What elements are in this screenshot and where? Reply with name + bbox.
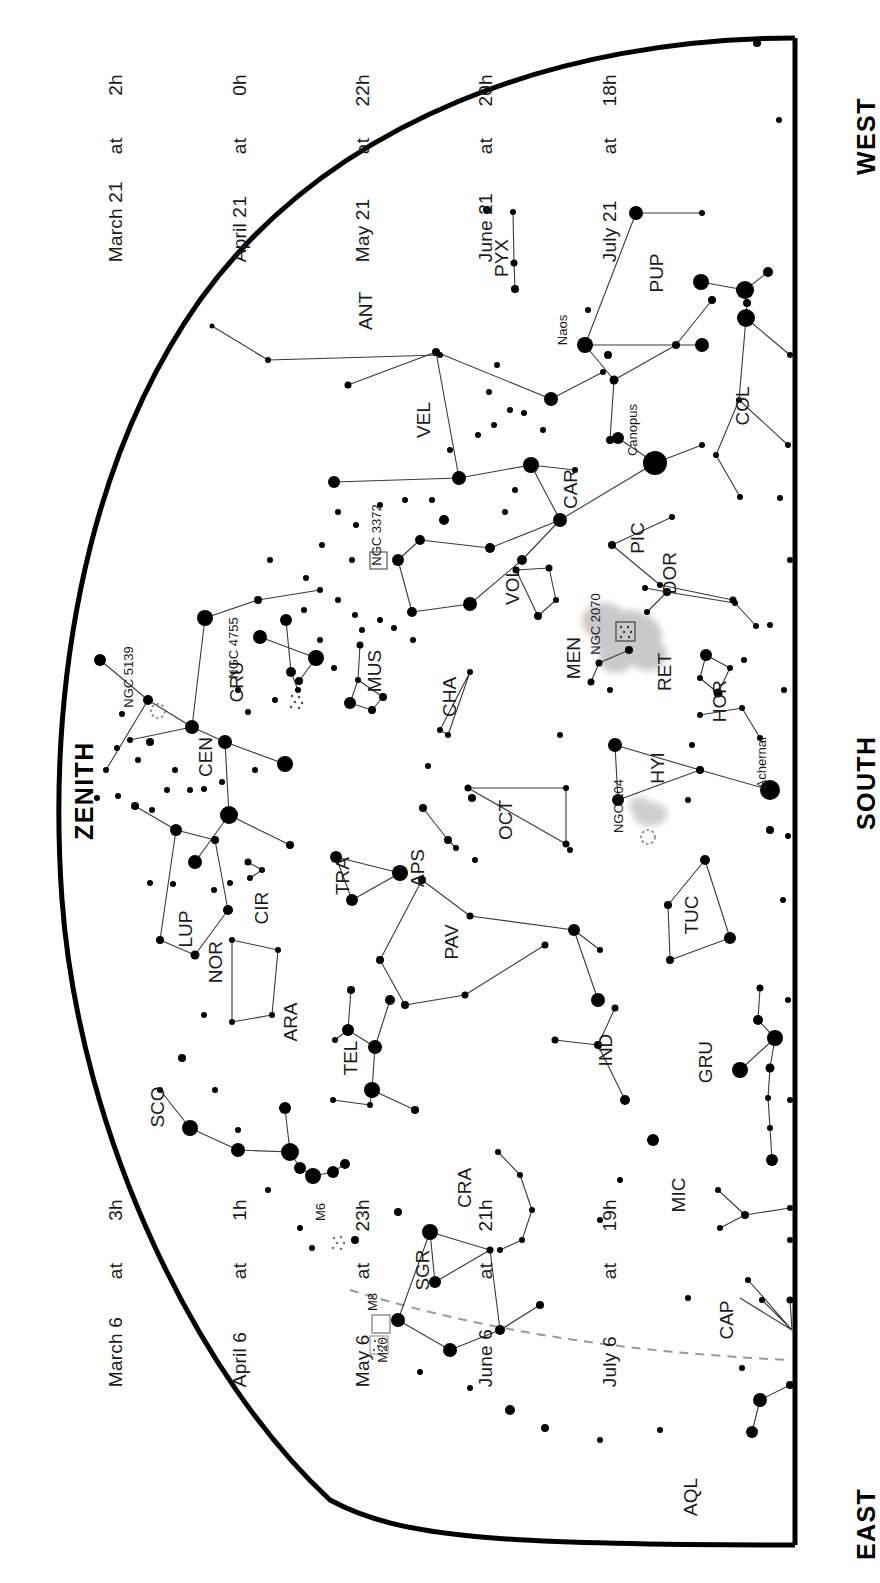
epoch-time: 3h — [104, 1199, 129, 1245]
epoch-date: June 21 — [474, 154, 499, 262]
constellation-label-ngc-3372: NGC 3372 — [369, 504, 384, 565]
epoch-at: at — [104, 120, 129, 154]
epoch-row: April 6at1h — [203, 1199, 277, 1420]
epoch-time: 1h — [228, 1199, 253, 1245]
epoch-at: at — [598, 1245, 623, 1279]
epoch-at: at — [351, 1245, 376, 1279]
constellation-label-ara: ARA — [280, 1002, 301, 1041]
constellation-label-men: MEN — [563, 637, 584, 679]
epoch-time: 18h — [598, 74, 623, 120]
epoch-at: at — [598, 120, 623, 154]
constellation-label-ret: RET — [654, 653, 675, 691]
constellation-label-hor: HOR — [709, 680, 730, 722]
constellation-label-achernar: Achernar — [754, 735, 769, 788]
epoch-row: March 21at2h — [79, 74, 153, 295]
epoch-at: at — [228, 1245, 253, 1279]
epoch-time: 2h — [104, 74, 129, 120]
constellation-label-gru: GRU — [695, 1041, 716, 1083]
constellation-label-ngc-104: NGC 104 — [611, 779, 626, 833]
constellation-label-col: COL — [732, 386, 753, 425]
constellation-label-ant: ANT — [355, 292, 376, 330]
cardinal-east: EAST — [852, 1488, 880, 1560]
epoch-table-top: March 21at2h April 21at0h May 21at22h Ju… — [30, 74, 697, 295]
epoch-table-bottom: March 6at3h April 6at1h May 6at23h June … — [30, 1199, 697, 1420]
epoch-time: 19h — [598, 1199, 623, 1245]
epoch-row: June 21at20h — [450, 74, 524, 295]
epoch-at: at — [351, 120, 376, 154]
epoch-row: May 21at22h — [326, 74, 400, 295]
epoch-time: 23h — [351, 1199, 376, 1245]
constellation-label-cir: CIR — [251, 892, 272, 925]
constellation-label-dor: DOR — [659, 552, 680, 594]
epoch-date: May 6 — [351, 1279, 376, 1387]
star-chart: PYXPUPANTVELCOLCARPICNGC 3372DORVOLNGC 2… — [0, 0, 880, 1583]
constellation-label-tra: TRA — [332, 857, 353, 895]
epoch-row: March 6at3h — [79, 1199, 153, 1420]
epoch-row: July 21at18h — [573, 74, 647, 295]
constellation-label-tuc: TUC — [681, 895, 702, 934]
constellation-label-ngc-5139: NGC 5139 — [121, 646, 136, 707]
constellation-label-ngc-2070: NGC 2070 — [588, 593, 603, 654]
star-label-naos: Naos — [555, 314, 570, 345]
constellation-label-pav: PAV — [441, 924, 462, 960]
epoch-date: July 21 — [598, 154, 623, 262]
epoch-at: at — [474, 120, 499, 154]
constellation-label-ind: IND — [595, 1034, 616, 1067]
constellation-label-sco: SCO — [147, 1086, 168, 1127]
epoch-row: May 6at23h — [326, 1199, 400, 1420]
epoch-date: April 21 — [228, 154, 253, 262]
constellation-label-pic: PIC — [627, 522, 648, 554]
epoch-date: March 6 — [104, 1279, 129, 1387]
constellation-label-lup: LUP — [175, 911, 196, 948]
constellation-label-aql: AQL — [680, 1478, 701, 1516]
epoch-at: at — [104, 1245, 129, 1279]
epoch-at: at — [474, 1245, 499, 1279]
constellation-label-hyi: HYI — [647, 752, 668, 784]
constellation-label-cen: CEN — [195, 737, 216, 777]
constellation-label-aps: APS — [407, 849, 428, 887]
cardinal-south: SOUTH — [852, 736, 880, 831]
epoch-time: 0h — [228, 74, 253, 120]
star-label-canopus: Canopus — [625, 403, 640, 456]
constellation-label-vol: VOL — [502, 567, 523, 605]
constellation-label-oct: OCT — [495, 800, 516, 841]
epoch-time: 20h — [474, 74, 499, 120]
constellation-label-cha: CHA — [439, 677, 460, 717]
epoch-date: July 6 — [598, 1279, 623, 1387]
constellation-label-tel: TEL — [340, 1041, 361, 1076]
epoch-row: June 6at21h — [450, 1199, 524, 1420]
constellation-label-car: CAR — [560, 469, 581, 509]
constellation-label-cap: CAP — [716, 1300, 737, 1339]
constellation-label-vel: VEL — [413, 402, 434, 438]
epoch-row: July 6at19h — [573, 1199, 647, 1420]
epoch-date: May 21 — [351, 154, 376, 262]
small-magellanic-cloud — [629, 797, 667, 826]
constellation-label-mus: MUS — [364, 650, 385, 692]
cardinal-zenith: ZENITH — [70, 741, 99, 840]
epoch-row: April 21at0h — [203, 74, 277, 295]
epoch-date: April 6 — [228, 1279, 253, 1387]
constellation-label-nor: NOR — [205, 941, 226, 983]
cardinal-west: WEST — [852, 97, 880, 175]
epoch-time: 21h — [474, 1199, 499, 1245]
constellation-label-cru: CRU — [226, 661, 247, 702]
epoch-time: 22h — [351, 74, 376, 120]
epoch-at: at — [228, 120, 253, 154]
epoch-date: June 6 — [474, 1279, 499, 1387]
epoch-date: March 21 — [104, 154, 129, 262]
